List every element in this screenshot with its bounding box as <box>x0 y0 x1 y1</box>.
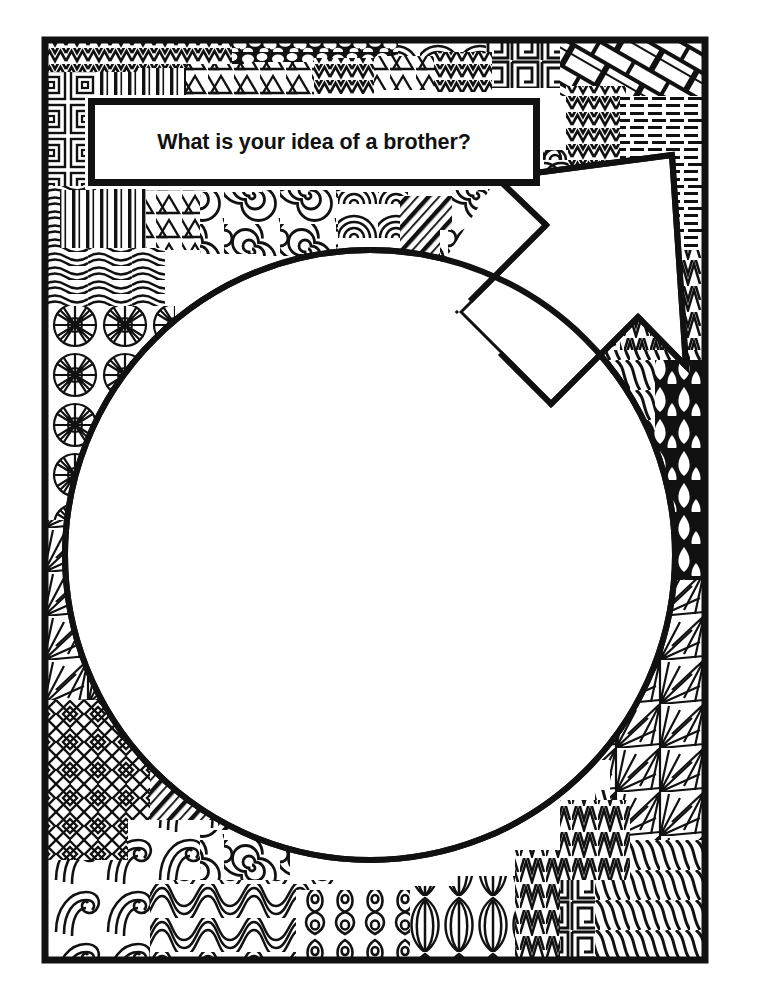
prompt-lead: What is your idea of a <box>157 130 383 154</box>
prompt-question-mark: ? <box>458 130 471 154</box>
prompt-text: What is your idea of a brother? <box>157 130 471 155</box>
prompt-keyword: brother <box>383 130 458 154</box>
worksheet-page: What is your idea of a brother? <box>0 0 761 1002</box>
prompt-box: What is your idea of a brother? <box>88 98 540 186</box>
